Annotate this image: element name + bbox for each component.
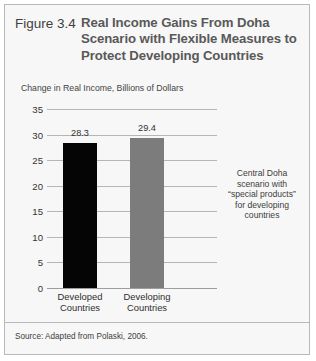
annotation-line-4: for developing: [219, 200, 305, 211]
bar-value-label: 29.4: [127, 123, 167, 133]
y-axis-tick-label: 15: [19, 206, 43, 217]
category-label-line: Developed: [45, 291, 115, 302]
category-label-line: Developing: [112, 291, 182, 302]
y-axis-tick-label: 25: [19, 155, 43, 166]
y-axis-tick-labels: 35302520151050: [17, 109, 43, 288]
figure-title-block: Figure 3.4 Real Income Gains From Doha S…: [5, 13, 310, 75]
chart-annotation: Central Doha scenario with “special prod…: [219, 168, 305, 221]
page-title: Real Income Gains From Doha Scenario wit…: [81, 15, 303, 64]
title-line-3: Protect Developing Countries: [81, 48, 303, 64]
y-axis-tick-label: 30: [19, 130, 43, 141]
figure-number-label: Figure 3.4: [15, 16, 76, 31]
annotation-line-5: countries: [219, 210, 305, 221]
y-axis-tick-label: 35: [19, 104, 43, 115]
annotation-line-3: “special products”: [219, 189, 305, 200]
y-axis-tick-label: 5: [19, 257, 43, 268]
gridline: [47, 109, 217, 110]
chart-bar: [130, 138, 164, 288]
title-line-2: Scenario with Flexible Measures to: [81, 31, 303, 47]
figure-frame: Figure 3.4 Real Income Gains From Doha S…: [4, 4, 310, 355]
bar-value-label: 28.3: [60, 128, 100, 138]
annotation-line-2: scenario with: [219, 179, 305, 190]
y-axis-tick-label: 0: [19, 283, 43, 294]
x-axis-line: [47, 288, 217, 289]
y-axis-tick-label: 20: [19, 181, 43, 192]
category-label-line: Countries: [112, 302, 182, 313]
x-axis-category-label: DevelopedCountries: [45, 291, 115, 314]
source-note: Source: Adapted from Polaski, 2006.: [15, 332, 148, 341]
title-line-1: Real Income Gains From Doha: [81, 15, 303, 31]
y-axis-title: Change in Real Income, Billions of Dolla…: [21, 83, 183, 93]
x-axis-category-label: DevelopingCountries: [112, 291, 182, 314]
chart-bar: [63, 143, 97, 288]
y-axis-tick-label: 10: [19, 232, 43, 243]
annotation-line-1: Central Doha: [219, 168, 305, 179]
source-divider: [5, 322, 310, 323]
chart-plot-area: 28.3DevelopedCountries29.4DevelopingCoun…: [47, 109, 217, 288]
category-label-line: Countries: [45, 302, 115, 313]
